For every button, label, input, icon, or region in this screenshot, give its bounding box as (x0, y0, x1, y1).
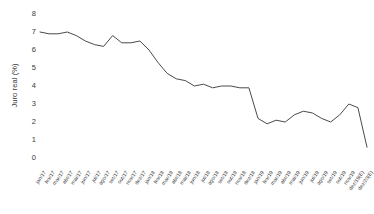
data-line-svg (38, 0, 371, 170)
y-axis-title: Juro real (%) (6, 0, 22, 170)
y-axis-tick-3: 3 (32, 100, 36, 108)
y-axis-tick-2: 2 (32, 118, 36, 126)
y-axis-tick-1: 1 (32, 136, 36, 144)
y-axis-tick-5: 5 (32, 64, 36, 72)
plot-area (38, 0, 371, 170)
y-axis-tick-0: 0 (32, 154, 36, 162)
y-axis-tick-6: 6 (32, 46, 36, 54)
y-axis-tick-8: 8 (32, 10, 36, 18)
y-axis-title-label: Juro real (%) (10, 63, 19, 107)
y-axis-tick-7: 7 (32, 28, 36, 36)
x-axis-tick-labels: jan/17fev/17mar/17abr/17mai/17jun/17jul/… (38, 170, 371, 214)
series-juro-real-line (40, 32, 367, 147)
y-axis-tick-4: 4 (32, 82, 36, 90)
y-axis-tick-labels: 012345678 (22, 0, 36, 170)
